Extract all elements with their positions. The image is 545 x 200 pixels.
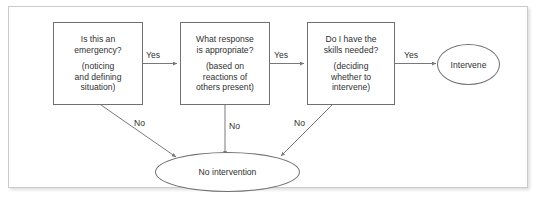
decision-box-emergency[interactable]: Is this an emergency? (noticing and defi… <box>53 22 143 105</box>
decision-box-skills[interactable]: Do I have the skills needed? (deciding w… <box>307 22 395 105</box>
flowchart: Is this an emergency? (noticing and defi… <box>0 0 545 200</box>
edge-label-yes-2: Yes <box>274 50 288 60</box>
decision-detail: (based on reactions of others present) <box>196 61 254 93</box>
decision-question: What response is appropriate? <box>196 34 254 55</box>
decision-question: Is this an emergency? <box>74 34 121 55</box>
edge-label-yes-3: Yes <box>404 50 418 60</box>
outcome-no-intervention[interactable]: No intervention <box>155 152 300 192</box>
decision-question: Do I have the skills needed? <box>324 34 378 55</box>
decision-detail: (noticing and defining situation) <box>75 61 122 93</box>
outcome-label: No intervention <box>199 167 257 177</box>
outcome-intervene[interactable]: Intervene <box>437 44 500 85</box>
edge-label-yes-1: Yes <box>146 50 160 60</box>
decision-box-response[interactable]: What response is appropriate? (based on … <box>180 22 270 105</box>
outcome-label: Intervene <box>451 60 487 70</box>
edge-label-no-2: No <box>229 121 240 131</box>
edge-label-no-3: No <box>294 118 305 128</box>
edge-label-no-1: No <box>134 118 145 128</box>
decision-detail: (deciding whether to intervene) <box>331 61 371 93</box>
